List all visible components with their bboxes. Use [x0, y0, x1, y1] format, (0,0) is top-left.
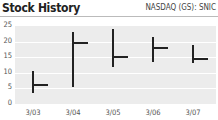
- y-tick-label: 0: [0, 99, 12, 107]
- close-tick: [113, 56, 128, 58]
- high-low-bar: [192, 45, 194, 64]
- high-low-bar: [72, 32, 74, 87]
- x-tick-label: 3/07: [178, 108, 208, 117]
- chart-title: Stock History: [2, 1, 80, 15]
- gridline: [15, 73, 216, 74]
- x-tick-label: 3/05: [98, 108, 128, 117]
- y-tick-label: 15: [0, 52, 12, 60]
- y-tick-label: 10: [0, 68, 12, 76]
- gridline: [15, 42, 216, 43]
- x-tick-label: 3/04: [58, 108, 88, 117]
- close-tick: [153, 47, 168, 49]
- close-tick: [33, 84, 48, 86]
- y-tick-label: 20: [0, 37, 12, 45]
- high-low-bar: [112, 29, 114, 66]
- gridline: [15, 88, 216, 89]
- chart-header: Stock History NASDAQ (GS): SNIC: [0, 0, 218, 17]
- high-low-bar: [152, 37, 154, 62]
- x-tick-label: 3/03: [18, 108, 48, 117]
- plot-area: [15, 26, 216, 104]
- ticker-symbol: NASDAQ (GS): SNIC: [145, 3, 216, 12]
- y-tick-label: 5: [0, 83, 12, 91]
- x-tick-label: 3/06: [138, 108, 168, 117]
- high-low-bar: [32, 71, 34, 93]
- close-tick: [193, 58, 208, 60]
- close-tick: [73, 42, 88, 44]
- y-tick-label: 25: [0, 21, 12, 29]
